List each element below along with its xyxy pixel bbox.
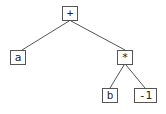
node-plus-operator: + bbox=[62, 6, 78, 21]
node-constant-neg1: -1 bbox=[134, 88, 157, 103]
node-variable-b: b bbox=[102, 88, 118, 103]
node-variable-a: a bbox=[10, 50, 26, 65]
edge-times-neg1 bbox=[126, 65, 145, 88]
edge-times-b bbox=[110, 65, 124, 88]
edge-plus-times bbox=[71, 21, 125, 50]
edge-plus-a bbox=[22, 21, 69, 50]
node-multiply-operator: * bbox=[117, 50, 133, 65]
